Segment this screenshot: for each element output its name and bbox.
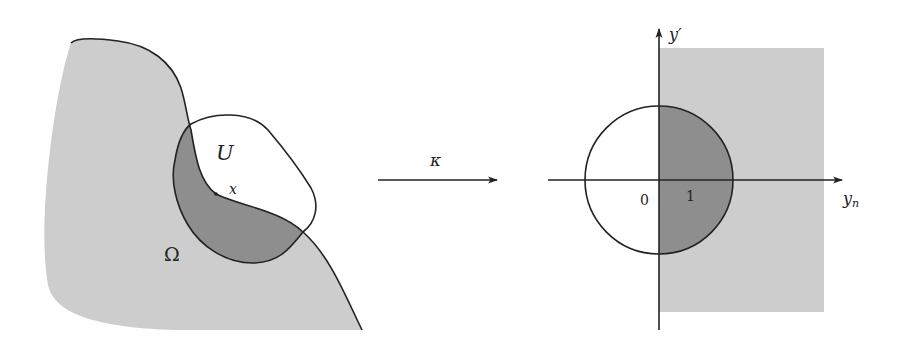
neighborhood-u-label: U	[216, 141, 235, 165]
kappa-label: κ	[429, 150, 441, 170]
horizontal-axis-label-subscript: n	[852, 197, 859, 210]
vertical-axis-label: y′	[668, 25, 682, 44]
horizontal-axis-label: yn	[842, 189, 859, 210]
right-panel: y′ yn 0 1	[548, 25, 859, 330]
origin-label: 0	[640, 192, 649, 208]
point-x-label: x	[229, 181, 237, 197]
domain-omega-label: Ω	[164, 243, 180, 265]
left-panel: U x Ω	[44, 39, 362, 330]
chart-map-arrow: κ	[378, 150, 497, 180]
point-x-marker	[214, 192, 218, 196]
diagram-canvas: U x Ω κ y′ yn 0 1	[0, 0, 901, 355]
unit-tick-label: 1	[686, 188, 695, 204]
